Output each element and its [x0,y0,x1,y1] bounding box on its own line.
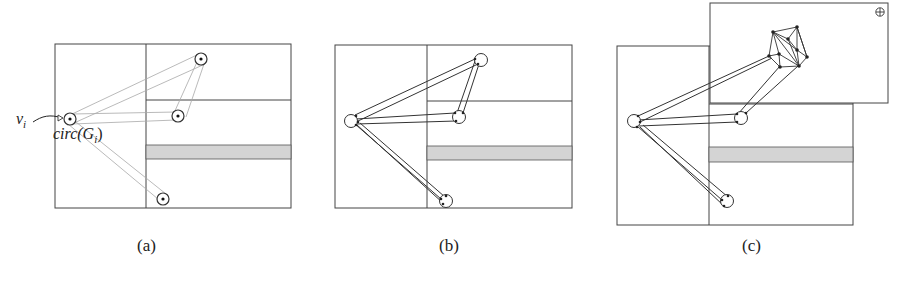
node-vi [64,113,76,125]
panel-c-shaded-band [709,147,853,162]
node-mid [172,110,184,122]
panel-c [617,3,888,225]
panel-b [335,45,572,208]
panel-b-shaded-band [427,146,572,160]
pointer-arrowhead [58,115,63,121]
circ-label-close: ) [97,125,102,142]
node-top [195,53,207,65]
panel-b-edges [355,59,479,203]
node-bottom [157,193,169,205]
vertex-label: vi [16,110,26,130]
caption-a: (a) [137,236,156,256]
panel-b-port-dots [355,58,480,206]
caption-c: (c) [742,236,761,256]
vertex-label-sub: i [23,118,26,130]
circled-plus-icon[interactable] [876,8,884,16]
caption-b: (b) [439,236,459,256]
expanded-cluster-window [710,3,888,103]
panel-b-nodes [345,54,488,208]
panel-a-shaded-band [146,145,291,159]
node-top [475,54,488,67]
circ-label-text: circ(G [53,125,94,142]
circ-label: circ(Gi) [53,125,103,145]
